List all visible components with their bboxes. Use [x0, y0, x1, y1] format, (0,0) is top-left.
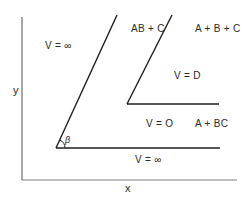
- x-axis-label: x: [125, 183, 131, 194]
- region-label-lower-middle: V = O: [146, 119, 173, 129]
- y-axis-label: y: [13, 85, 19, 96]
- angle-label-beta: β: [65, 136, 70, 145]
- species-label-ab-c: AB + C: [131, 24, 165, 34]
- region-label-top-left: V = ∞: [45, 41, 72, 51]
- species-label-a-bc: A + BC: [195, 119, 228, 129]
- left-slanted-boundary: [56, 15, 117, 148]
- region-label-bottom: V = ∞: [135, 155, 162, 165]
- species-label-a-b-c: A + B + C: [195, 24, 241, 34]
- region-label-middle: V = D: [174, 71, 201, 81]
